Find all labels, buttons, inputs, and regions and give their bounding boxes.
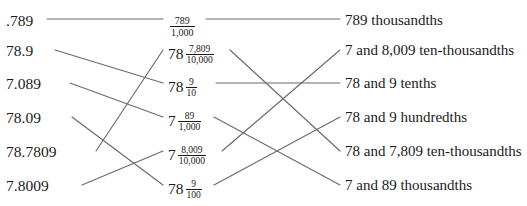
word-name-item-3[interactable]: 78 and 9 tenths (345, 76, 436, 91)
denominator: 1,000 (170, 26, 195, 38)
denominator: 10,000 (186, 54, 214, 66)
fraction: 7,809 10,000 (186, 44, 214, 66)
fraction: 789 1,000 (170, 15, 195, 38)
numerator: 9 (188, 77, 195, 88)
matching-diagram: .789 78.9 7.089 78.09 78.7809 7.8009 789… (0, 0, 527, 206)
fraction: 9 100 (186, 179, 202, 201)
word-name-item-1[interactable]: 789 thousandths (345, 13, 443, 28)
numerator: 7,809 (188, 44, 211, 55)
mixed-number: 78 9 10 (168, 76, 197, 98)
fraction: 89 1,000 (178, 111, 201, 133)
decimal-item-1[interactable]: .789 (6, 13, 33, 29)
decimal-item-6[interactable]: 7.8009 (6, 178, 49, 194)
mixed-number: 789 1,000 (168, 14, 195, 37)
numerator: 89 (184, 111, 196, 122)
decimal-item-4[interactable]: 78.09 (6, 110, 41, 126)
fraction-item-3[interactable]: 78 9 10 (168, 76, 197, 98)
numerator: 789 (174, 15, 191, 26)
whole-part: 7 (168, 147, 176, 163)
fraction: 8,009 10,000 (178, 145, 206, 167)
denominator: 10,000 (178, 155, 206, 167)
word-name-item-4[interactable]: 78 and 9 hundredths (345, 110, 467, 125)
numerator: 8,009 (180, 145, 203, 156)
fraction: 9 10 (186, 77, 198, 99)
whole-part: 7 (168, 113, 176, 129)
fraction-item-6[interactable]: 78 9 100 (168, 178, 202, 200)
denominator: 10 (186, 87, 198, 99)
fraction-item-5[interactable]: 7 8,009 10,000 (168, 144, 206, 166)
mixed-number: 78 9 100 (168, 178, 202, 200)
mixed-number: 78 7,809 10,000 (168, 43, 214, 65)
decimal-item-2[interactable]: 78.9 (6, 43, 33, 59)
word-name-item-6[interactable]: 7 and 89 thousandths (345, 178, 472, 193)
word-name-column: 789 thousandths 7 and 8,009 ten-thousand… (345, 0, 527, 206)
word-name-item-2[interactable]: 7 and 8,009 ten-thousandths (345, 43, 514, 58)
mixed-number: 7 89 1,000 (168, 110, 201, 132)
decimal-column: .789 78.9 7.089 78.09 78.7809 7.8009 (6, 0, 136, 206)
word-name-item-5[interactable]: 78 and 7,809 ten-thousandths (345, 144, 522, 159)
fraction-item-2[interactable]: 78 7,809 10,000 (168, 43, 214, 65)
denominator: 100 (186, 189, 202, 201)
decimal-item-3[interactable]: 7.089 (6, 76, 41, 92)
denominator: 1,000 (178, 121, 201, 133)
numerator: 9 (190, 179, 197, 190)
mixed-number: 7 8,009 10,000 (168, 144, 206, 166)
whole-part: 78 (168, 181, 184, 197)
fraction-item-1[interactable]: 789 1,000 (168, 13, 195, 38)
whole-part: 78 (168, 79, 184, 95)
fraction-item-4[interactable]: 7 89 1,000 (168, 110, 201, 132)
decimal-item-5[interactable]: 78.7809 (6, 144, 56, 160)
whole-part: 78 (168, 46, 184, 62)
fraction-column: 789 1,000 78 7,809 10,000 78 9 10 (168, 0, 298, 206)
